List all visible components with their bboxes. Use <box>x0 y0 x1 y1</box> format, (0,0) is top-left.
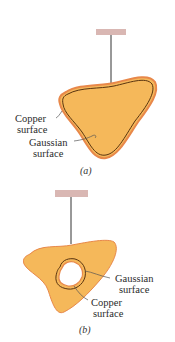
gaussian-surface-label-a-1: Gaussian <box>29 137 68 148</box>
gauss-law-conductor-figure: Copper surface Gaussian surface (a) Gaus… <box>0 0 175 342</box>
gaussian-surface-label-b-2: surface <box>119 284 150 295</box>
support-bar-a <box>96 29 126 35</box>
caption-b: (b) <box>79 324 91 336</box>
panel-a: Copper surface Gaussian surface (a) <box>15 29 156 177</box>
copper-body-a <box>59 77 156 158</box>
copper-leader-a <box>56 111 62 118</box>
copper-surface-label-a-1: Copper <box>15 113 46 124</box>
gaussian-surface-label-a-2: surface <box>33 148 64 159</box>
copper-surface-label-b-1: Copper <box>91 297 122 308</box>
copper-surface-label-b-2: surface <box>93 308 124 319</box>
caption-a: (a) <box>80 165 92 177</box>
panel-b: Gaussian surface Copper surface (b) <box>23 190 154 336</box>
gaussian-surface-label-b-1: Gaussian <box>115 273 154 284</box>
support-bar-b <box>55 190 88 197</box>
copper-surface-label-a-2: surface <box>17 124 48 135</box>
